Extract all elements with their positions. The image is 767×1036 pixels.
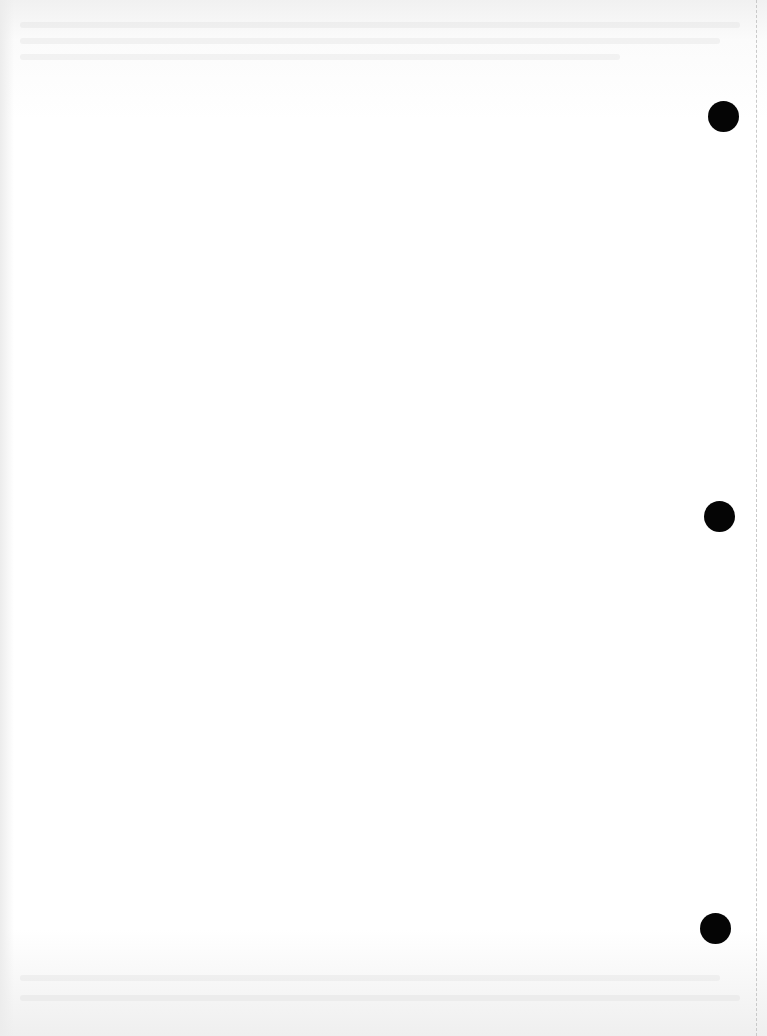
punch-hole-middle bbox=[704, 501, 735, 532]
page-edge-shadow bbox=[0, 0, 14, 1036]
bleed-through-bottom-2 bbox=[20, 995, 740, 1001]
punch-hole-top bbox=[708, 101, 739, 132]
bleed-through-bottom-1 bbox=[20, 975, 720, 981]
bleed-through-top-2 bbox=[20, 38, 720, 44]
perforation-line bbox=[756, 0, 757, 1036]
scanned-page bbox=[0, 0, 767, 1036]
bleed-through-top-3 bbox=[20, 54, 620, 60]
bleed-through-top-1 bbox=[20, 22, 740, 28]
punch-hole-bottom bbox=[700, 913, 731, 944]
